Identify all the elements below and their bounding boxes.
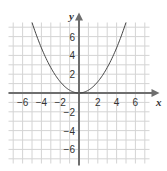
y-tick-label: −6 xyxy=(64,144,76,155)
x-tick-label: −6 xyxy=(17,97,29,108)
x-tick-label: 6 xyxy=(133,97,139,108)
y-tick-label: 2 xyxy=(69,69,75,80)
x-tick-label: 2 xyxy=(95,97,101,108)
x-tick-label: −4 xyxy=(36,97,48,108)
y-tick-label: −2 xyxy=(64,107,76,118)
x-tick-label: 4 xyxy=(114,97,120,108)
axes xyxy=(9,13,160,166)
y-tick-label: 6 xyxy=(69,32,75,43)
y-tick-label: 4 xyxy=(69,50,75,61)
y-axis-arrow-icon xyxy=(75,13,83,21)
y-axis-label: y xyxy=(67,10,74,22)
y-tick-label: −4 xyxy=(64,126,76,137)
x-axis-label: x xyxy=(155,96,162,108)
parabola-chart: −6−4−2246642−2−4−6 x y xyxy=(0,0,167,171)
